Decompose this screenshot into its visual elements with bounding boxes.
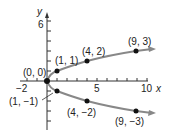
parabola-plot: y x 6 −2 5 10 (0, 0) (1, 1) (4, 2) (9, 3… [0,0,171,135]
point-label-1-1: (1, 1) [55,55,78,66]
point-label-4-2: (4, 2) [82,46,105,57]
point-label-0-0: (0, 0) [23,67,46,78]
y-ticks [47,21,51,121]
point-label-1-neg1: (1, −1) [9,96,38,107]
tick-label-6: 6 [38,19,44,30]
point-label-4-neg2: (4, −2) [67,107,96,118]
lower-arrow-icon [148,110,156,116]
point-label-9-neg3: (9, −3) [115,116,144,127]
tick-label-5: 5 [94,83,100,94]
x-axis-label: x [155,83,162,94]
y-axis-label: y [36,6,43,17]
tick-label-10: 10 [141,83,153,94]
point-label-9-3: (9, 3) [128,36,151,47]
tick-label-neg2: −2 [16,83,28,94]
y-axis-arrow-icon [45,12,49,18]
